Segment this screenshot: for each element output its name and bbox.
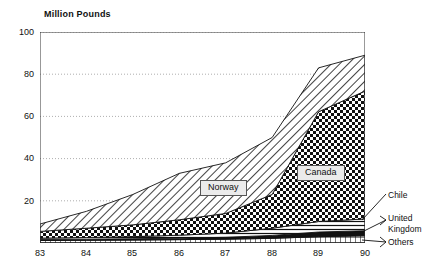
plot-area — [40, 32, 365, 243]
x-tick-89: 89 — [306, 248, 330, 258]
x-tick-87: 87 — [213, 248, 237, 258]
y-tick-40: 40 — [8, 153, 34, 163]
x-tick-86: 86 — [167, 248, 191, 258]
y-tick-60: 60 — [8, 111, 34, 121]
x-tick-84: 84 — [74, 248, 98, 258]
series-label-canada: Canada — [297, 165, 345, 181]
callout-leader-lines — [360, 180, 400, 255]
series-areas — [40, 55, 365, 243]
chart-axis-title: Million Pounds — [44, 9, 111, 19]
x-tick-88: 88 — [260, 248, 284, 258]
y-tick-20: 20 — [8, 196, 34, 206]
stacked-area-svg — [40, 32, 365, 243]
chart-figure: Million Pounds 100 80 60 40 20 83 84 85 … — [0, 0, 439, 272]
y-tick-100: 100 — [8, 27, 34, 37]
series-label-norway: Norway — [200, 180, 247, 196]
x-tick-85: 85 — [120, 248, 144, 258]
x-tick-83: 83 — [28, 248, 52, 258]
y-tick-80: 80 — [8, 69, 34, 79]
